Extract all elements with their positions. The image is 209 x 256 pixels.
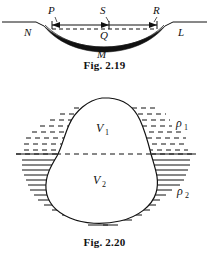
figure-2-19-drawing: N P S R Q L M [0, 0, 209, 59]
label-density-upper: ρ [175, 116, 182, 130]
floating-body-outline [46, 98, 158, 223]
leader-P [55, 17, 57, 22]
figure-2-19-caption: Fig. 2.19 [0, 59, 209, 72]
figure-2-20: V 1 V 2 ρ 1 ρ 2 Fig. 2.20 [0, 76, 209, 256]
arrowhead-S [101, 22, 109, 28]
leader-S [106, 17, 109, 22]
figure-2-20-drawing: V 1 V 2 ρ 1 ρ 2 [0, 76, 209, 236]
arrowhead-P [52, 22, 60, 28]
arrowhead-R [149, 22, 157, 28]
label-point-M: M [96, 48, 107, 59]
label-density-lower: ρ [176, 184, 183, 198]
ground-line-right [165, 22, 207, 26]
figure-2-20-caption: Fig. 2.20 [0, 236, 209, 249]
label-point-P: P [47, 4, 55, 16]
label-point-Q: Q [100, 29, 108, 41]
label-density-lower-sub: 2 [185, 191, 189, 200]
label-point-L: L [177, 26, 184, 38]
figure-sheet: N P S R Q L M Fig. 2.19 [0, 0, 209, 256]
label-point-R: R [152, 4, 160, 16]
ground-line-left [2, 22, 44, 26]
label-volume-upper-sub: 1 [105, 128, 109, 137]
label-volume-lower-sub: 2 [102, 180, 106, 189]
label-density-upper-sub: 1 [184, 123, 188, 132]
label-point-S: S [100, 4, 106, 16]
figure-2-19: N P S R Q L M Fig. 2.19 [0, 0, 209, 76]
label-point-N: N [23, 26, 32, 38]
